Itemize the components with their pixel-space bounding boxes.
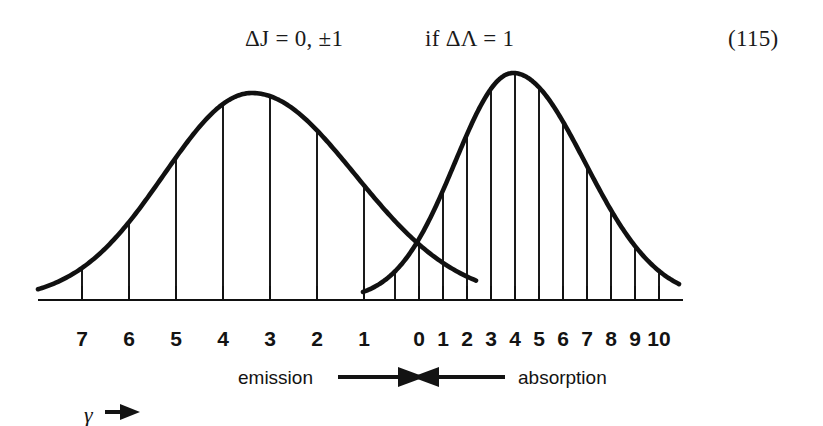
- emission-tick-label-4: 4: [217, 328, 229, 349]
- absorption-tick-label-0: 0: [413, 328, 425, 349]
- emission-tick-label-2: 2: [311, 328, 323, 349]
- emission-tick-label-1: 1: [358, 328, 370, 349]
- gamma-axis-label: γ: [84, 404, 93, 426]
- plot-svg: [0, 58, 823, 328]
- absorption-tick-label-3: 3: [485, 328, 497, 349]
- emission-tick-label-6: 6: [123, 328, 135, 349]
- absorption-arrow-icon: [412, 367, 505, 387]
- figure-container: ΔJ = 0, ±1 if ΔΛ = 1 (115) 7654321012345…: [0, 0, 823, 426]
- absorption-tick-label-10: 10: [647, 328, 670, 349]
- emission-arrow-icon: [338, 367, 425, 387]
- band-contour-plot: [0, 58, 823, 328]
- absorption-curve: [363, 73, 679, 292]
- absorption-tick-label-1: 1: [437, 328, 449, 349]
- absorption-tick-label-7: 7: [581, 328, 593, 349]
- gamma-arrow-icon: [105, 404, 140, 420]
- absorption-tick-label-8: 8: [605, 328, 617, 349]
- condition-clause-formula: if ΔΛ = 1: [425, 26, 514, 52]
- emission-direction-label: emission: [238, 368, 313, 387]
- emission-tick-label-5: 5: [170, 328, 182, 349]
- axis-tick-labels: 7654321012345678910: [0, 328, 823, 362]
- absorption-direction-label: absorption: [518, 368, 607, 387]
- absorption-tick-label-2: 2: [461, 328, 473, 349]
- emission-tick-label-3: 3: [264, 328, 276, 349]
- annotation-arrows-svg: [0, 360, 823, 426]
- emission-dropline-group: [82, 96, 467, 300]
- emission-tick-label-7: 7: [76, 328, 88, 349]
- equation-number: (115): [728, 26, 778, 52]
- emission-curve: [38, 93, 476, 289]
- absorption-tick-label-6: 6: [557, 328, 569, 349]
- absorption-tick-label-4: 4: [509, 328, 521, 349]
- absorption-tick-label-5: 5: [533, 328, 545, 349]
- selection-rule-formula: ΔJ = 0, ±1: [245, 26, 343, 52]
- formula-row: ΔJ = 0, ±1 if ΔΛ = 1 (115): [0, 20, 823, 60]
- absorption-tick-label-9: 9: [629, 328, 641, 349]
- absorption-dropline-group: [395, 73, 659, 300]
- direction-annotations: emission absorption γ: [0, 360, 823, 426]
